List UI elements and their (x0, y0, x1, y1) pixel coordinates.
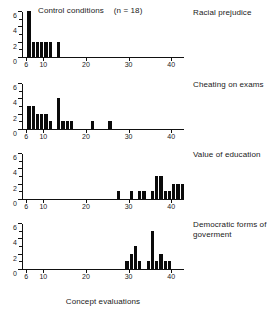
x-axis-0 (22, 57, 184, 58)
x-axis-caption: Concept evaluations (22, 297, 184, 307)
x-tick-label-10: 10 (39, 273, 47, 281)
x-tick-label-40: 40 (167, 203, 175, 211)
y-tick-6 (18, 11, 22, 12)
y-tick-0 (18, 199, 22, 200)
histogram-bar (117, 191, 121, 199)
histogram-panel-cheating-on-exams: Cheating on exams 0246610203040 (0, 76, 280, 146)
y-tick-minor-1 (19, 191, 22, 192)
histogram-panel-value-of-education: Value of education 0246610203040 (0, 146, 280, 216)
y-tick-minor-3 (19, 106, 22, 107)
x-tick-label-30: 30 (125, 61, 133, 69)
y-tick-minor-5 (19, 161, 22, 162)
y-tick-0 (18, 129, 22, 130)
y-tick-6 (18, 153, 22, 154)
histogram-bar (108, 121, 112, 129)
y-tick-4 (18, 168, 22, 169)
histogram-bar (168, 261, 172, 269)
histogram-panel-democratic-forms: Democratic forms of goverment 0246610203… (0, 216, 280, 292)
x-tick-label-30: 30 (125, 273, 133, 281)
histogram-panel-racial-prejudice: Control conditions(n = 18) Racial prejud… (0, 4, 280, 76)
panel-label-democratic-forms: Democratic forms of goverment (193, 220, 280, 240)
x-tick-label-20: 20 (82, 203, 90, 211)
x-tick-label-20: 20 (82, 133, 90, 141)
histogram-bar (49, 121, 53, 129)
x-tick-label-30: 30 (125, 133, 133, 141)
x-tick-label-6: 6 (24, 203, 28, 211)
x-tick-label-6: 6 (24, 273, 28, 281)
multi-panel-histogram-figure: Control conditions(n = 18) Racial prejud… (0, 0, 280, 317)
y-tick-6 (18, 223, 22, 224)
x-tick-label-10: 10 (39, 133, 47, 141)
bars-group-2 (23, 154, 184, 199)
plot-area-2: 0246610203040 (22, 154, 184, 200)
panel-label-cheating-on-exams: Cheating on exams (193, 80, 280, 90)
x-tick-label-20: 20 (82, 61, 90, 69)
x-tick-label-6: 6 (24, 61, 28, 69)
plot-area-1: 0246610203040 (22, 84, 184, 130)
x-tick-label-40: 40 (167, 61, 175, 69)
histogram-bar (138, 261, 142, 269)
y-tick-minor-3 (19, 246, 22, 247)
histogram-bar (181, 184, 185, 199)
y-tick-6 (18, 83, 22, 84)
x-tick-label-40: 40 (167, 133, 175, 141)
x-tick-label-10: 10 (39, 61, 47, 69)
histogram-bar (91, 121, 95, 129)
y-tick-2 (18, 114, 22, 115)
histogram-bar (70, 121, 74, 129)
y-tick-0 (18, 269, 22, 270)
plot-area-3: 0246610203040 (22, 224, 184, 270)
bars-group-1 (23, 84, 184, 129)
x-tick-label-6: 6 (24, 133, 28, 141)
bars-group-0 (23, 12, 184, 57)
x-tick-label-20: 20 (82, 273, 90, 281)
histogram-bar (142, 191, 146, 199)
y-tick-2 (18, 254, 22, 255)
y-tick-minor-3 (19, 34, 22, 35)
histogram-bar (130, 191, 134, 199)
y-tick-0 (18, 57, 22, 58)
x-tick-label-30: 30 (125, 203, 133, 211)
y-tick-minor-1 (19, 49, 22, 50)
panel-label-value-of-education: Value of education (193, 150, 280, 160)
histogram-bar (49, 42, 53, 57)
x-axis-1 (22, 129, 184, 130)
x-axis-2 (22, 199, 184, 200)
plot-area-0: 0246610203040 (22, 12, 184, 58)
y-tick-minor-1 (19, 121, 22, 122)
y-tick-minor-1 (19, 261, 22, 262)
y-tick-minor-3 (19, 176, 22, 177)
y-tick-minor-5 (19, 231, 22, 232)
x-tick-label-10: 10 (39, 203, 47, 211)
bars-group-3 (23, 224, 184, 269)
y-tick-2 (18, 42, 22, 43)
y-tick-minor-5 (19, 91, 22, 92)
x-axis-3 (22, 269, 184, 270)
histogram-bar (57, 42, 61, 57)
y-tick-minor-5 (19, 19, 22, 20)
y-tick-4 (18, 238, 22, 239)
x-tick-label-40: 40 (167, 273, 175, 281)
y-tick-4 (18, 98, 22, 99)
y-tick-4 (18, 26, 22, 27)
y-tick-2 (18, 184, 22, 185)
panel-label-racial-prejudice: Racial prejudice (193, 8, 280, 18)
